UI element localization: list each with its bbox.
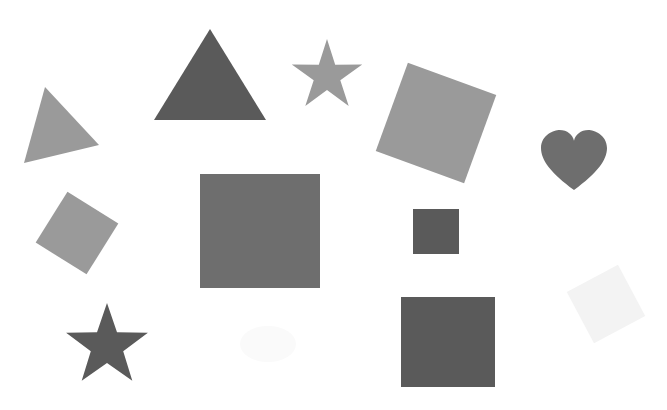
- square-icon: [401, 297, 495, 387]
- shapes-stage: [0, 0, 667, 410]
- star-icon: [292, 39, 362, 106]
- square-icon: [200, 174, 320, 288]
- faint-blob: [240, 326, 296, 362]
- rotated-square-icon: [376, 63, 496, 183]
- triangle-icon: [24, 87, 99, 163]
- rotated-square-icon: [567, 265, 645, 343]
- square-icon: [413, 209, 459, 254]
- star-icon: [66, 303, 148, 381]
- rotated-square-icon: [36, 192, 119, 275]
- triangle-icon: [154, 29, 266, 120]
- shapes-canvas: [0, 0, 667, 410]
- heart-icon: [541, 130, 607, 190]
